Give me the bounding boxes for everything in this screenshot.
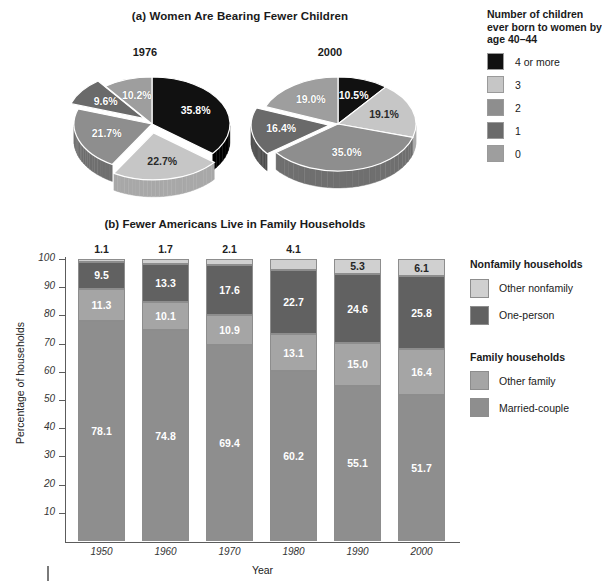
pie-slice-side: [380, 161, 385, 180]
bar-segment-value: 55.1: [347, 457, 367, 469]
bar-legend-swatch-icon: [470, 371, 489, 390]
bar-segment-1970-one-person[interactable]: 17.6: [206, 265, 253, 315]
y-tick-mark: [59, 513, 65, 514]
bar-segment-value: 6.1: [414, 262, 429, 274]
pie-legend-swatch-icon: [487, 99, 504, 116]
bar-segment-2000-other-family[interactable]: 16.4: [398, 349, 445, 395]
y-tick-label: 100: [22, 252, 55, 263]
pie-slice-side: [352, 169, 358, 187]
pie-slice-side: [200, 169, 203, 187]
y-tick-mark: [59, 259, 65, 260]
bar-segment-value: 17.6: [219, 284, 239, 296]
bar-segment-1970-married-couple[interactable]: 69.4: [206, 345, 253, 541]
bar-segment-1980-married-couple[interactable]: 60.2: [270, 371, 317, 541]
pie-slice-side: [92, 154, 95, 173]
pie-slice-side: [114, 173, 117, 191]
legend-group-nonfamily: Nonfamily households: [470, 258, 602, 271]
pie-slice-side: [183, 176, 187, 194]
bar-segment-1970-other-family[interactable]: 10.9: [206, 315, 253, 346]
bar-segment-1990-married-couple[interactable]: 55.1: [334, 386, 381, 541]
y-tick-mark: [59, 287, 65, 288]
y-tick-mark: [59, 400, 65, 401]
pie-legend-title: Number of children ever born to women by…: [487, 8, 602, 46]
pie-legend-item-2[interactable]: 2: [487, 101, 602, 115]
y-axis-title: Percentage of households: [14, 253, 26, 513]
pie-slice-side: [106, 162, 109, 180]
bar-legend-item-married-couple[interactable]: Married-couple: [470, 398, 602, 417]
pie-legend-item-0[interactable]: 4 or more: [487, 55, 602, 69]
bar-segment-1950-married-couple[interactable]: 78.1: [78, 321, 125, 541]
bar-segment-1950-one-person[interactable]: 9.5: [78, 262, 125, 289]
pie-legend-label: 2: [515, 102, 521, 114]
bar-segment-1960-one-person[interactable]: 13.3: [142, 264, 189, 302]
bar-segment-2000-one-person[interactable]: 25.8: [398, 276, 445, 349]
pie-slice-side: [340, 171, 346, 188]
bar-legend-item-other-nonfamily[interactable]: Other nonfamily: [470, 279, 602, 298]
pie-slice-side: [148, 180, 152, 197]
bar-legend-label: Other nonfamily: [499, 282, 573, 294]
bar-segment-value: 24.6: [347, 303, 367, 315]
pie-legend-item-4[interactable]: 0: [487, 147, 602, 161]
x-tick-label-1950: 1950: [78, 546, 125, 557]
pie-slice-side: [121, 176, 125, 194]
pie-legend: Number of children ever born to women by…: [487, 8, 602, 161]
bar-segment-1960-other-nonfamily[interactable]: [142, 259, 189, 264]
x-tick-label-1970: 1970: [206, 546, 253, 557]
bar-segment-1970-other-nonfamily[interactable]: [206, 259, 253, 265]
pie-slice-value-label: 35.0%: [327, 146, 367, 158]
pie-legend-label: 4 or more: [515, 56, 560, 68]
legend-group-family: Family households: [470, 351, 602, 364]
y-tick-label: 90: [22, 280, 55, 291]
bar-segment-1980-other-family[interactable]: 13.1: [270, 334, 317, 371]
pie-slice-side: [152, 180, 156, 197]
bar-legend-label: One-person: [499, 309, 554, 321]
pie-slice-side: [132, 178, 136, 196]
bar-segment-1990-other-nonfamily[interactable]: 5.3: [334, 259, 381, 274]
panel-b-title: (b) Fewer Americans Live in Family House…: [0, 218, 470, 230]
pie-slice-side: [117, 174, 121, 192]
pie-legend-label: 3: [515, 79, 521, 91]
pie-slice-value-label: 19.1%: [364, 108, 404, 120]
pie-slice-side: [85, 149, 87, 168]
pie-slice-value-label: 10.5%: [334, 89, 374, 101]
pie-slice-side: [90, 152, 92, 171]
pie-slice-side: [261, 148, 262, 166]
y-tick-label: 50: [22, 393, 55, 404]
bar-segment-1950-other-family[interactable]: 11.3: [78, 289, 125, 321]
bar-segment-value: 11.3: [92, 299, 112, 311]
bar-legend: Nonfamily households Other nonfamilyOne-…: [470, 258, 602, 417]
pie-slice-value-label: 22.7%: [142, 155, 182, 167]
pie-legend-swatch-icon: [487, 122, 504, 139]
pie-slice-value-label: 21.7%: [87, 127, 127, 139]
bar-segment-1960-married-couple[interactable]: 74.8: [142, 330, 189, 541]
pie-legend-item-1[interactable]: 3: [487, 78, 602, 92]
x-tick-label-1990: 1990: [334, 546, 381, 557]
pie-legend-item-3[interactable]: 1: [487, 124, 602, 138]
pie-slice-side: [212, 162, 215, 181]
y-tick-mark: [59, 315, 65, 316]
bar-segment-1980-one-person[interactable]: 22.7: [270, 270, 317, 334]
bar-segment-2000-other-nonfamily[interactable]: 6.1: [398, 259, 445, 276]
pie-slice-side: [334, 171, 340, 188]
bar-segment-1990-one-person[interactable]: 24.6: [334, 274, 381, 343]
bar-segment-value: 60.2: [283, 450, 303, 462]
bar-legend-label: Other family: [499, 375, 556, 387]
x-tick-label-1960: 1960: [142, 546, 189, 557]
bar-segment-1990-other-family[interactable]: 15.0: [334, 343, 381, 385]
bar-legend-item-one-person[interactable]: One-person: [470, 306, 602, 325]
bar-segment-1950-other-nonfamily[interactable]: [78, 259, 125, 262]
pie-slice-side: [193, 172, 196, 190]
bar-segment-2000-married-couple[interactable]: 51.7: [398, 395, 445, 541]
bar-segment-1980-other-nonfamily[interactable]: [270, 259, 317, 271]
bar-segment-1960-other-family[interactable]: 10.1: [142, 302, 189, 330]
bar-segment-value: 22.7: [283, 296, 303, 308]
pie-slice-side: [328, 171, 334, 188]
y-tick-label: 70: [22, 337, 55, 348]
pie-slice-side: [299, 165, 304, 184]
pie-slice-side: [103, 161, 106, 179]
x-tick-label-1980: 1980: [270, 546, 317, 557]
pie-slice-side: [294, 163, 299, 182]
bar-segment-value-external: 4.1: [270, 243, 317, 255]
bar-legend-swatch-icon: [470, 279, 489, 298]
bar-legend-item-other-family[interactable]: Other family: [470, 371, 602, 390]
